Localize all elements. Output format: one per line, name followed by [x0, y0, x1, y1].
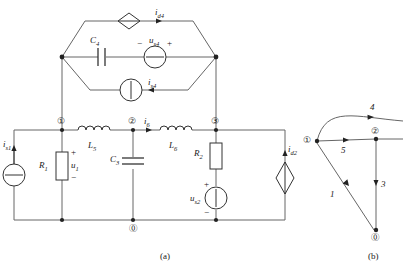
- label-id2: id2: [288, 145, 297, 156]
- label-is4: is4: [148, 78, 156, 89]
- node-label-2: ②: [128, 117, 136, 126]
- figure-canvas: [0, 0, 403, 274]
- graph-part-b: [317, 116, 403, 230]
- graph-edge-4: [317, 116, 403, 141]
- graph-node-label-0: ⓪: [371, 233, 380, 242]
- label-c3: C3: [110, 155, 119, 166]
- capacitor-c3: [122, 158, 144, 164]
- voltage-source-us2: [205, 187, 227, 209]
- node-label-3: ③: [211, 117, 219, 126]
- graph-branch-label-5: 5: [341, 146, 346, 155]
- graph-node-label-1: ①: [303, 136, 311, 145]
- us4-plus-sign: +: [167, 39, 172, 48]
- label-r1: R1: [39, 161, 48, 172]
- label-l5: L5: [88, 141, 96, 152]
- voltage-source-us4: [144, 46, 166, 68]
- graph-branch-label-4: 4: [370, 103, 375, 112]
- caption-a: (a): [160, 252, 170, 261]
- caption-b: (b): [368, 252, 379, 261]
- inductor-l5: [78, 126, 110, 130]
- capacitor-c4: [98, 48, 105, 66]
- inductor-l6: [160, 126, 192, 130]
- u1-plus-sign: +: [71, 148, 76, 157]
- label-us2: us2: [190, 194, 200, 205]
- us4-minus-sign: −: [137, 39, 142, 48]
- us2-minus-sign: −: [204, 208, 209, 217]
- current-arrow-i6: [146, 128, 152, 133]
- us2-plus-sign: +: [204, 180, 209, 189]
- graph-branch-label-3: 3: [381, 180, 386, 189]
- graph-branch-label-1: 1: [330, 190, 335, 199]
- u1-minus-sign: −: [71, 173, 76, 182]
- wire-hex-upper-right: [193, 21, 216, 57]
- graph-edge-1: [317, 143, 374, 230]
- label-r2: R2: [194, 149, 203, 160]
- wire-hex-lower-left: [62, 57, 90, 90]
- wire-hex-upper-left: [62, 21, 85, 57]
- label-u1: u1: [71, 161, 79, 172]
- resistor-r2: [210, 143, 222, 169]
- label-l6: L6: [169, 141, 177, 152]
- node-label-0: ⓪: [129, 224, 138, 233]
- graph-node-label-2: ②: [371, 127, 379, 136]
- label-id4: id4: [155, 8, 164, 19]
- resistor-r1: [56, 152, 68, 180]
- label-is1: is1: [3, 140, 11, 151]
- node-label-1: ①: [57, 117, 65, 126]
- label-i6: i6: [144, 117, 150, 128]
- label-us4: us4: [149, 36, 159, 47]
- wire-hex-lower-right: [188, 57, 216, 90]
- label-c4: C4: [90, 36, 99, 47]
